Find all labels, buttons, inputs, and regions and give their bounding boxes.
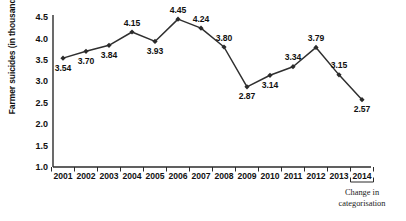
plot-area: 1.01.52.02.53.03.54.04.5 200120022003200… xyxy=(0,0,406,221)
x-axis-tick-label: 2005 xyxy=(145,171,164,181)
y-axis-tick-label: 4.0 xyxy=(35,34,48,44)
x-axis-tick-label: 2010 xyxy=(260,171,279,181)
x-axis-tick-label: 2009 xyxy=(237,171,256,181)
y-axis-tick-label: 3.5 xyxy=(35,55,48,65)
x-axis-tick-label: 2001 xyxy=(53,171,72,181)
x-axis-tick-label: 2006 xyxy=(168,171,187,181)
x-axis-tick-label: 2008 xyxy=(214,171,233,181)
data-point-marker xyxy=(60,56,65,61)
x-axis-tick-label: 2007 xyxy=(191,171,210,181)
data-value-label: 4.45 xyxy=(170,5,187,15)
data-value-label: 3.70 xyxy=(78,56,95,66)
x-axis-tick-labels: 2001200220032004200520062007200820092010… xyxy=(53,171,371,181)
data-value-label: 2.57 xyxy=(354,104,371,114)
x-axis-tick-label: 2013 xyxy=(329,171,348,181)
data-value-label: 3.15 xyxy=(331,60,348,70)
annotation-line-2: categorisation xyxy=(339,199,387,208)
annotation-line-1: Change in xyxy=(345,188,380,197)
data-point-marker xyxy=(83,49,88,54)
data-value-label: 3.79 xyxy=(308,33,325,43)
x-axis-tick-label: 2011 xyxy=(284,171,303,181)
data-point-marker xyxy=(267,73,272,78)
data-value-label: 2.87 xyxy=(239,91,256,101)
data-value-label: 4.24 xyxy=(193,14,210,24)
y-axis-tick-label: 4.5 xyxy=(35,12,48,22)
y-axis-tick-labels: 1.01.52.02.53.03.54.04.5 xyxy=(35,12,48,172)
data-value-label: 3.84 xyxy=(101,50,118,60)
y-axis-tick-label: 1.0 xyxy=(35,162,48,172)
data-value-label: 3.54 xyxy=(55,63,72,73)
y-axis-tick-label: 1.5 xyxy=(35,141,48,151)
data-value-label: 3.14 xyxy=(262,80,279,90)
y-axis-tick-label: 3.0 xyxy=(35,76,48,86)
x-axis-tick-label: 2004 xyxy=(122,171,141,181)
x-axis-tick-label: 2014 xyxy=(352,171,371,181)
x-axis-tick-label: 2003 xyxy=(99,171,118,181)
x-axis-tick-label: 2012 xyxy=(306,171,325,181)
data-value-labels: 3.543.703.844.153.934.454.243.802.873.14… xyxy=(55,5,371,115)
farmer-suicides-line-chart: Farmer suicides (in thousand) 1.01.52.02… xyxy=(0,0,406,221)
y-axis-tick-label: 2.0 xyxy=(35,119,48,129)
data-value-label: 3.34 xyxy=(285,52,302,62)
y-axis-tick-label: 2.5 xyxy=(35,98,48,108)
data-value-label: 4.15 xyxy=(124,18,141,28)
data-value-label: 3.80 xyxy=(216,33,233,43)
data-value-label: 3.93 xyxy=(147,46,164,56)
x-axis-tick-label: 2002 xyxy=(76,171,95,181)
